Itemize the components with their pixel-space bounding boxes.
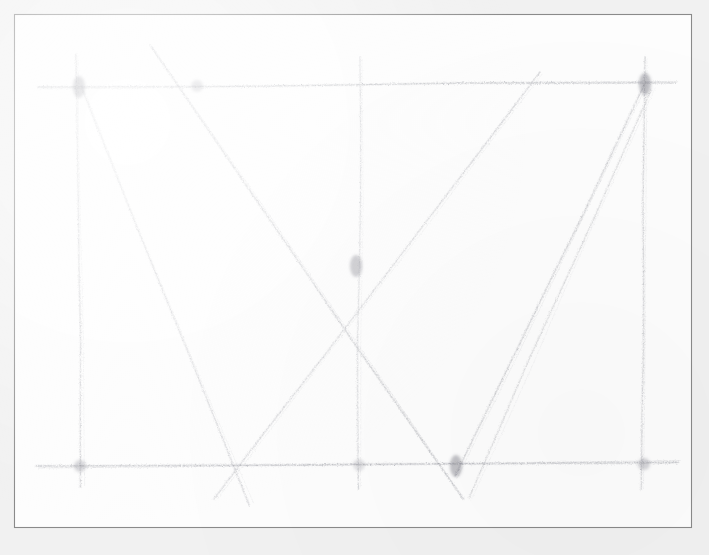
core-diagonal-left-descending [81,86,249,505]
node-central-x-crossing [350,255,362,277]
node-bottom-brace-node [450,455,462,477]
core-diagonal-center-to-lower-left [214,72,540,499]
node-bottom-center-node [353,459,365,471]
node-top-mid-left-node [191,80,203,92]
node-bottom-right-node [638,458,650,470]
node-top-left-node [73,76,85,98]
core-diagonal-lower-right-brace-pass2 [471,89,655,500]
sketch-canvas [0,0,709,555]
core-diagonal-upper-left-to-center [150,45,463,499]
sketch-drawing [0,0,709,555]
node-bottom-left-node [74,460,86,472]
core-diagonal-center-to-lower-left-pass2 [218,74,543,499]
core-diagonal-left-descending-pass2 [83,88,253,503]
node-top-right-node [639,73,651,95]
